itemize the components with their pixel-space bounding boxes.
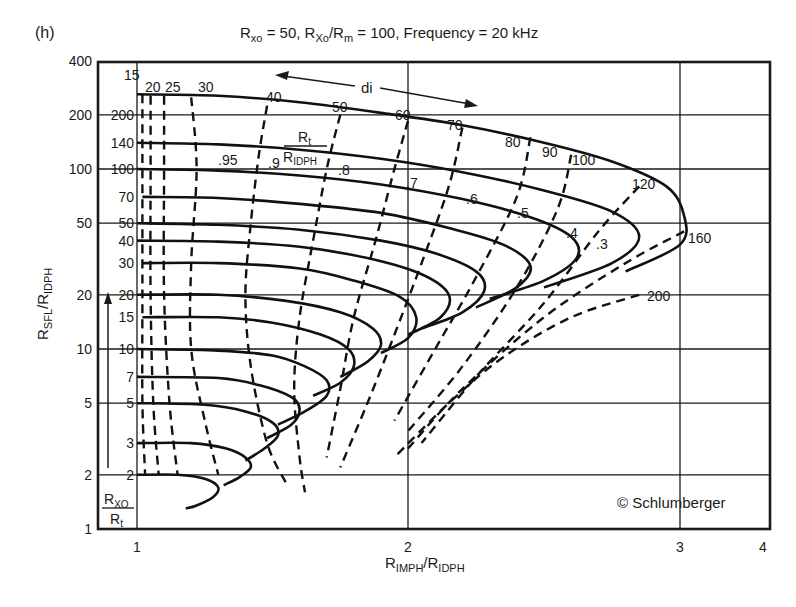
series-line bbox=[137, 169, 579, 299]
y-tick-label: 1 bbox=[84, 521, 92, 537]
series-line bbox=[150, 96, 158, 475]
series-line bbox=[164, 96, 178, 475]
rt-ratio-label: .5 bbox=[517, 205, 529, 221]
x-axis-label: RIMPH/RIDPH bbox=[385, 554, 465, 574]
series-line bbox=[142, 263, 416, 353]
di-value-label: 200 bbox=[647, 288, 671, 304]
di-value-label: 100 bbox=[572, 152, 596, 168]
y-tick-label: 2 bbox=[84, 467, 92, 483]
series-line bbox=[137, 349, 329, 425]
rxo-rt-tick-label: 50 bbox=[118, 215, 134, 231]
svg-text:di: di bbox=[361, 79, 373, 96]
rxo-rt-tick-label: 3 bbox=[126, 435, 134, 451]
di-value-label: 90 bbox=[542, 144, 558, 160]
rxo-rt-tick-label: 200 bbox=[111, 107, 135, 123]
rxo-rt-tick-label: 10 bbox=[118, 341, 134, 357]
svg-text:Rt: Rt bbox=[110, 511, 123, 529]
series-line bbox=[137, 377, 300, 438]
rxo-rt-tick-label: 5 bbox=[126, 395, 134, 411]
rxo-rt-tick-label: 7 bbox=[126, 369, 134, 385]
rxo-rt-tick-label: 100 bbox=[111, 161, 135, 177]
up-arrow-icon bbox=[104, 292, 112, 468]
series-line bbox=[422, 186, 640, 443]
svg-text:Rt: Rt bbox=[298, 129, 311, 147]
x-tick-label: 3 bbox=[676, 539, 684, 555]
rt-ratio-label: .6 bbox=[466, 191, 478, 207]
chart-title: Rxo = 50, RXo/Rm = 100, Frequency = 20 k… bbox=[240, 24, 538, 44]
rt-ratio-label: .3 bbox=[596, 236, 608, 252]
rxo-rt-tick-label: 40 bbox=[118, 233, 134, 249]
rxo-rt-tick-label: 30 bbox=[118, 255, 134, 271]
y-tick-label: 400 bbox=[69, 53, 93, 69]
rt-ratio-label: .4 bbox=[566, 225, 578, 241]
y-tick-label: 200 bbox=[69, 107, 93, 123]
series-line bbox=[142, 317, 354, 396]
x-tick-label: 4 bbox=[759, 539, 767, 555]
di-value-label: 120 bbox=[632, 176, 656, 192]
di-value-label: 80 bbox=[505, 134, 521, 150]
series-line bbox=[142, 94, 145, 475]
series-line bbox=[137, 443, 251, 486]
rxo-rt-tick-label: 15 bbox=[118, 309, 134, 325]
y-tick-label: 100 bbox=[69, 161, 93, 177]
rxo-rt-label: RXO Rt bbox=[102, 491, 134, 529]
rt-ratio-label: .95 bbox=[218, 152, 238, 168]
rt-ratio-label: .8 bbox=[338, 162, 350, 178]
copyright-text: © Schlumberger bbox=[617, 494, 726, 511]
rt-ratio-label: .7 bbox=[406, 175, 418, 191]
rxo-rt-tick-label: 20 bbox=[118, 287, 134, 303]
di-value-label: 40 bbox=[266, 89, 282, 105]
y-tick-label: 50 bbox=[76, 215, 92, 231]
chart-figure: (h) Rxo = 50, RXo/Rm = 100, Frequency = … bbox=[0, 0, 796, 607]
series-line bbox=[137, 474, 219, 508]
di-value-label: 25 bbox=[165, 79, 181, 95]
x-tick-label: 2 bbox=[404, 539, 412, 555]
y-tick-label: 5 bbox=[84, 395, 92, 411]
series-line bbox=[190, 97, 218, 474]
svg-text:RXO: RXO bbox=[104, 491, 129, 510]
x-axis-ticks: 1234 bbox=[133, 539, 767, 555]
y-tick-label: 20 bbox=[76, 287, 92, 303]
y-axis-label: RSFL/RIDPH bbox=[34, 268, 54, 340]
series-line bbox=[137, 241, 450, 335]
di-value-label: 30 bbox=[198, 79, 214, 95]
series-line bbox=[137, 294, 381, 377]
rxo-rt-tick-label: 140 bbox=[111, 135, 135, 151]
rxo-rt-tick-label: 2 bbox=[126, 467, 134, 483]
di-value-label: 160 bbox=[688, 230, 712, 246]
di-value-label: 60 bbox=[395, 107, 411, 123]
di-value-label: 50 bbox=[332, 99, 348, 115]
panel-label: (h) bbox=[35, 24, 55, 41]
rxo-rt-tick-label: 70 bbox=[118, 189, 134, 205]
rt-ratio-label: .9 bbox=[268, 155, 280, 171]
series-line bbox=[408, 155, 571, 431]
di-value-label: 20 bbox=[145, 79, 161, 95]
di-value-label: 70 bbox=[447, 117, 463, 133]
x-tick-label: 1 bbox=[133, 539, 141, 555]
y-tick-label: 10 bbox=[76, 341, 92, 357]
annotations: 15202530405060708090100120160200.95.9.8.… bbox=[124, 67, 712, 304]
y-axis-ticks: 125102050100200400 bbox=[69, 53, 93, 537]
